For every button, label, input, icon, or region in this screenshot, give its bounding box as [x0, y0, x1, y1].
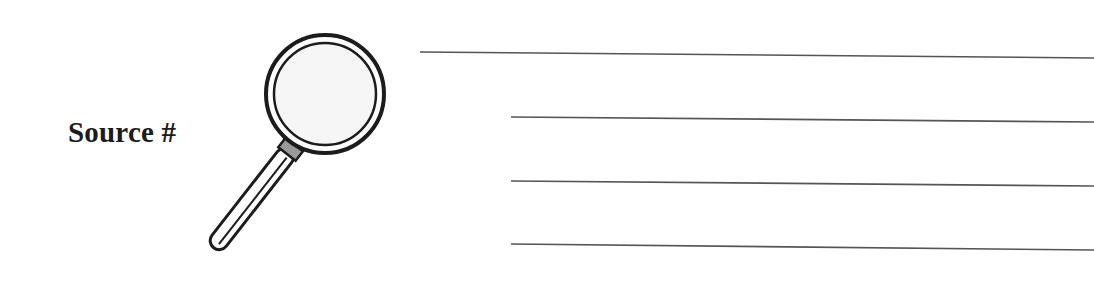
writing-line-1[interactable]: [420, 52, 1094, 58]
writing-line-3[interactable]: [511, 181, 1094, 186]
worksheet-canvas: [0, 0, 1094, 303]
magnifying-glass-icon: [205, 35, 384, 254]
writing-lines: [420, 52, 1094, 250]
writing-line-4[interactable]: [511, 244, 1094, 250]
writing-line-2[interactable]: [511, 117, 1094, 122]
